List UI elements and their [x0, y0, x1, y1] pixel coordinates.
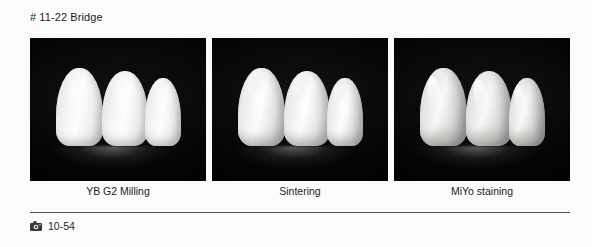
photo-panel-sintering	[212, 38, 388, 181]
panel-caption-staining: MiYo staining	[394, 183, 570, 199]
tooth-central-right	[102, 71, 148, 146]
camera-icon	[30, 221, 42, 231]
dental-bridge-restoration	[394, 54, 570, 146]
tooth-central-right	[466, 71, 512, 146]
tooth-central-left	[238, 68, 285, 146]
surface-reflection	[232, 146, 368, 176]
tooth-central-left	[56, 68, 103, 146]
surface-reflection	[414, 146, 550, 176]
figure-footer: 10-54	[30, 220, 75, 232]
photo-stage	[394, 38, 570, 181]
panel-caption-milling: YB G2 Milling	[30, 183, 206, 199]
photo-stage	[30, 38, 206, 181]
surface-reflection	[50, 146, 186, 176]
tooth-lateral-right	[145, 78, 181, 146]
panel-caption-row: YB G2 Milling Sintering MiYo staining	[30, 183, 570, 199]
panel-caption-sintering: Sintering	[212, 183, 388, 199]
photo-panel-milling	[30, 38, 206, 181]
dental-bridge-restoration	[30, 54, 206, 146]
photo-stage	[212, 38, 388, 181]
footer-divider	[30, 212, 570, 213]
tooth-lateral-right	[509, 78, 545, 146]
figure-number-label: 10-54	[48, 220, 75, 232]
tooth-lateral-right	[327, 78, 363, 146]
photo-panel-staining	[394, 38, 570, 181]
tooth-central-right	[284, 71, 330, 146]
tooth-central-left	[420, 68, 467, 146]
dental-bridge-restoration	[212, 54, 388, 146]
photo-panel-row	[30, 38, 570, 181]
figure-page: # 11-22 Bridge	[0, 0, 592, 247]
figure-title: # 11-22 Bridge	[30, 11, 103, 23]
